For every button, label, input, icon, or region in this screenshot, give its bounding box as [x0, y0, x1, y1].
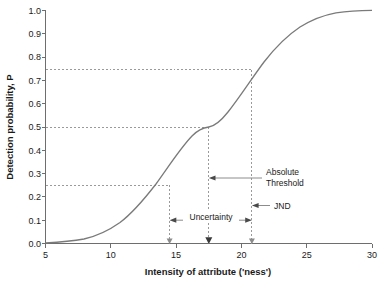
x-axis-threshold-markers [167, 237, 255, 244]
y-axis-ticks [42, 11, 46, 244]
annotation-absolute-threshold: Absolute Threshold [209, 167, 304, 188]
x-tick-label: 15 [171, 250, 181, 260]
y-tick-labels: 1.0 0.9 0.8 0.7 0.6 0.5 0.4 0.3 0.2 0.1 … [28, 6, 41, 249]
y-tick-label: 0.8 [28, 52, 41, 62]
x-tick-label: 5 [43, 250, 48, 260]
x-axis-title: Intensity of attribute ('ness') [145, 266, 271, 277]
absolute-threshold-label-line2: Threshold [266, 178, 304, 188]
marker-median-threshold-icon [205, 237, 212, 244]
y-tick-label: 0.1 [28, 216, 41, 226]
y-tick-label: 0.7 [28, 76, 41, 86]
y-tick-label: 1.0 [28, 6, 41, 16]
jnd-arrowhead-icon [252, 203, 259, 208]
chart-canvas: Detection probability, P 1.0 0.9 0.8 0.7… [0, 0, 382, 285]
x-tick-label: 30 [367, 250, 377, 260]
absolute-threshold-arrowhead-icon [209, 175, 216, 180]
y-tick-label: 0.4 [28, 146, 41, 156]
uncertainty-arrowhead-left-icon [170, 218, 177, 223]
x-axis-ticks [46, 244, 373, 248]
y-tick-label: 0.0 [28, 239, 41, 249]
psychometric-function-chart: Detection probability, P 1.0 0.9 0.8 0.7… [0, 0, 382, 285]
y-tick-label: 0.5 [28, 122, 41, 132]
x-tick-label: 25 [302, 250, 312, 260]
x-tick-label: 20 [236, 250, 246, 260]
uncertainty-label: Uncertainty [190, 212, 234, 222]
annotation-jnd: JND [252, 201, 291, 211]
y-tick-label: 0.3 [28, 169, 41, 179]
x-tick-label: 10 [106, 250, 116, 260]
x-tick-labels: 5 10 15 20 25 30 [43, 250, 377, 260]
jnd-label: JND [274, 201, 291, 211]
annotation-uncertainty: Uncertainty [170, 211, 252, 223]
absolute-threshold-label-line1: Absolute [266, 167, 299, 177]
y-tick-label: 0.2 [28, 192, 41, 202]
y-axis-title: Detection probability, P [4, 74, 15, 180]
uncertainty-arrowhead-right-icon [245, 218, 252, 223]
y-tick-label: 0.6 [28, 99, 41, 109]
y-tick-label: 0.9 [28, 29, 41, 39]
